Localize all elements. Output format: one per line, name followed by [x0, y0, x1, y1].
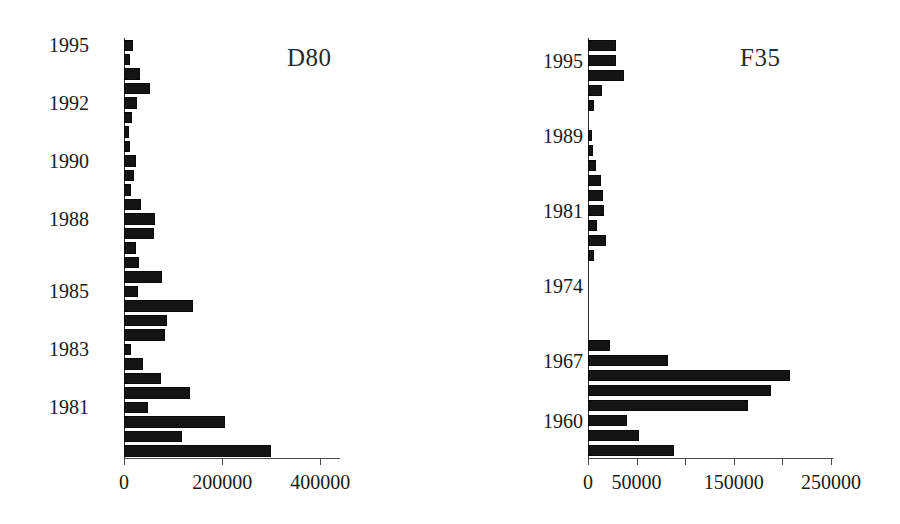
bar	[124, 141, 130, 152]
bar-row	[124, 110, 340, 124]
bar	[124, 300, 193, 311]
bar	[588, 85, 602, 97]
bar	[124, 329, 165, 340]
bar	[588, 385, 771, 397]
bar-row	[588, 218, 833, 233]
bar	[588, 205, 604, 217]
bar-row	[588, 98, 833, 113]
x-axis-tick-label: 0	[119, 471, 129, 494]
bar-row	[588, 158, 833, 173]
bar	[588, 190, 603, 202]
bar-row	[124, 38, 340, 52]
bar	[124, 112, 132, 123]
bar	[588, 100, 594, 112]
bar-row	[588, 428, 833, 443]
bar	[124, 199, 141, 210]
bar-row	[124, 125, 340, 139]
bar-row	[124, 154, 340, 168]
bar	[124, 315, 167, 326]
plot-area-f35: 050000150000250000	[588, 38, 833, 458]
bar	[124, 184, 131, 195]
bar	[588, 400, 748, 412]
bar-row	[588, 53, 833, 68]
bar	[588, 430, 639, 442]
bar	[124, 83, 150, 94]
bar-row	[588, 443, 833, 458]
bar-row	[588, 323, 833, 338]
bar-row	[124, 328, 340, 342]
bar	[124, 402, 148, 413]
x-axis-tick-label: 250000	[801, 471, 861, 494]
y-axis-tick-label: 1981	[543, 199, 583, 222]
bar-row	[588, 383, 833, 398]
bar-row	[124, 415, 340, 429]
bar	[588, 70, 624, 82]
bar-row	[588, 263, 833, 278]
x-axis-tick	[831, 458, 832, 465]
y-axis-tick-label: 1983	[49, 338, 89, 361]
bar	[588, 220, 597, 232]
x-axis-tick-label: 200000	[192, 471, 252, 494]
y-axis-tick-label: 1995	[543, 49, 583, 72]
x-axis-tick-label: 0	[583, 471, 593, 494]
y-axis-tick-label: 1990	[49, 150, 89, 173]
bar	[124, 97, 137, 108]
bar	[124, 416, 225, 427]
x-axis-tick	[685, 458, 686, 465]
bar-row	[588, 83, 833, 98]
bar-row	[124, 386, 340, 400]
bar	[124, 126, 129, 137]
bar-row	[124, 357, 340, 371]
x-axis-tick	[782, 458, 783, 465]
y-axis-tick-label: 1995	[49, 34, 89, 57]
x-axis-tick	[588, 458, 589, 465]
bar-row	[588, 143, 833, 158]
bar-row	[588, 368, 833, 383]
bar	[588, 445, 674, 457]
plot-area-d80: 0200000400000	[124, 38, 340, 458]
bar-row	[588, 248, 833, 263]
bar-series-f35	[588, 38, 833, 458]
bar	[124, 242, 136, 253]
bar-row	[124, 212, 340, 226]
bar-row	[124, 299, 340, 313]
bar	[124, 445, 271, 456]
bar	[124, 286, 138, 297]
y-axis-tick-label: 1992	[49, 92, 89, 115]
bar	[588, 40, 616, 52]
bar-row	[124, 284, 340, 298]
bar	[588, 160, 596, 172]
bar-row	[124, 241, 340, 255]
figure-two-bar-charts: D80 0200000400000 1995199219901988198519…	[0, 0, 900, 524]
bar-row	[124, 67, 340, 81]
chart-panel-d80: D80 0200000400000 1995199219901988198519…	[0, 0, 450, 524]
bar-row	[588, 203, 833, 218]
bar-row	[588, 113, 833, 128]
x-axis-tick	[124, 458, 125, 465]
x-axis-d80: 0200000400000	[124, 458, 340, 459]
bar	[124, 68, 140, 79]
bar-row	[588, 38, 833, 53]
bar	[124, 344, 131, 355]
bar-row	[588, 293, 833, 308]
bar-row	[124, 342, 340, 356]
bar	[588, 235, 606, 247]
bar	[588, 130, 592, 142]
bar	[588, 370, 790, 382]
y-axis-tick-label: 1989	[543, 124, 583, 147]
bar-row	[588, 188, 833, 203]
bar	[124, 358, 143, 369]
bar	[588, 415, 627, 427]
x-axis-tick	[320, 458, 321, 465]
bar-row	[124, 313, 340, 327]
bar-row	[588, 233, 833, 248]
bar-row	[588, 278, 833, 293]
bar	[124, 54, 130, 65]
bar-row	[124, 400, 340, 414]
bar	[588, 250, 594, 262]
bar	[124, 257, 139, 268]
bar-row	[588, 173, 833, 188]
bar-row	[124, 96, 340, 110]
bar	[124, 387, 190, 398]
y-axis-tick-label: 1985	[49, 280, 89, 303]
